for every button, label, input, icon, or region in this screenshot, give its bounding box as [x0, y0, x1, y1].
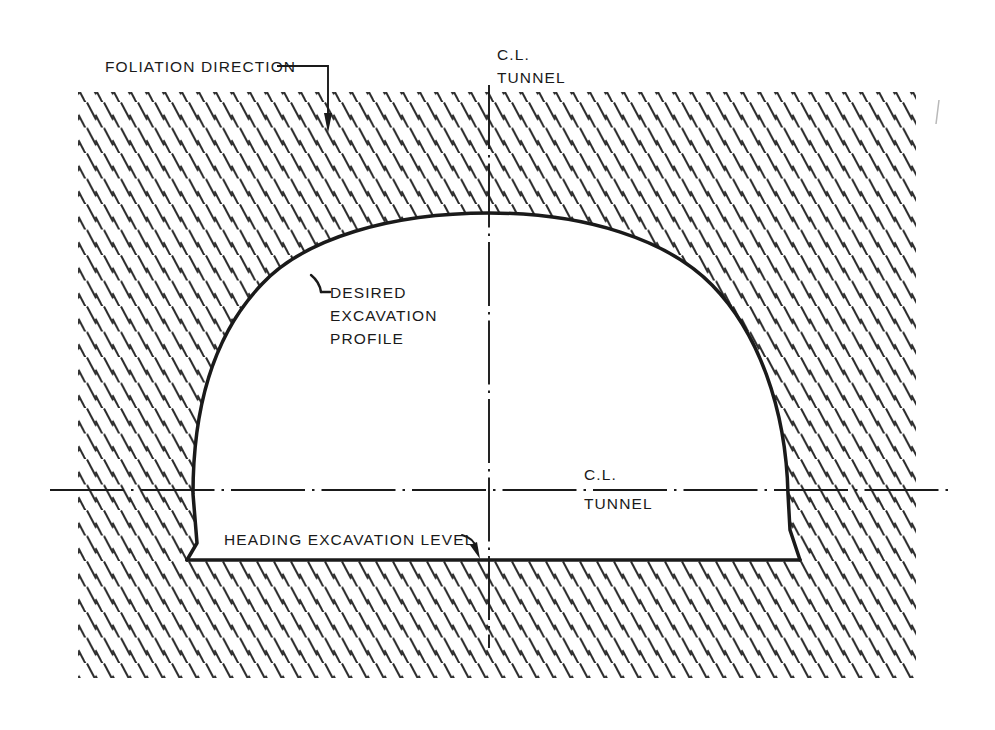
centerline-top-label-line2: TUNNEL	[497, 69, 566, 86]
centerline-top-label-line1: C.L.	[497, 46, 530, 63]
desired-profile-label-line3: PROFILE	[330, 330, 404, 347]
desired-profile-label-line1: DESIRED	[330, 284, 407, 301]
tunnel-section-figure: FOLIATION DIRECTION C.L. TUNNEL DESIRED …	[0, 0, 995, 730]
heading-excavation-level-label: HEADING EXCAVATION LEVEL	[224, 531, 474, 548]
foliation-direction-label: FOLIATION DIRECTION	[105, 58, 296, 75]
foliation-hatching	[0, 0, 995, 730]
centerline-mid-label-line1: C.L.	[584, 466, 617, 483]
desired-profile-label-line2: EXCAVATION	[330, 307, 437, 324]
diagram-page: FOLIATION DIRECTION C.L. TUNNEL DESIRED …	[0, 0, 995, 730]
centerline-mid-label-line2: TUNNEL	[584, 495, 653, 512]
